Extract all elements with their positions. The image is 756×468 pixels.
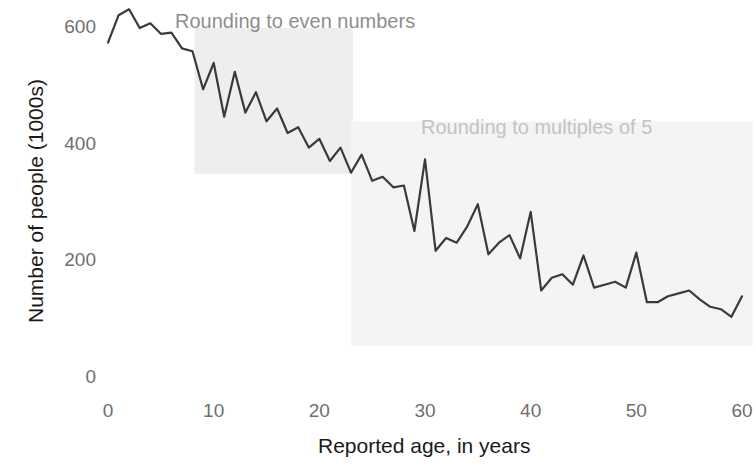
- y-tick-label-0: 0: [36, 366, 96, 388]
- x-axis-label: Reported age, in years: [318, 434, 530, 458]
- y-tick-label-200: 200: [36, 249, 96, 271]
- x-tick-label-50: 50: [606, 400, 666, 422]
- x-tick-label-30: 30: [395, 400, 455, 422]
- annotation-band-0: [195, 28, 354, 174]
- x-tick-label-10: 10: [184, 400, 244, 422]
- annotation-bands: [195, 28, 753, 346]
- y-tick-label-400: 400: [36, 133, 96, 155]
- y-axis-label: Number of people (1000s): [24, 11, 48, 391]
- x-tick-label-60: 60: [712, 400, 756, 422]
- x-tick-label-20: 20: [289, 400, 349, 422]
- annotation-rounding-multiples-of-5: Rounding to multiples of 5: [421, 116, 652, 139]
- line-chart-plot: [0, 0, 756, 468]
- annotation-band-1: [351, 121, 753, 346]
- x-tick-label-0: 0: [78, 400, 138, 422]
- chart-figure: Rounding to even numbers Rounding to mul…: [0, 0, 756, 468]
- x-tick-label-40: 40: [501, 400, 561, 422]
- annotation-rounding-even: Rounding to even numbers: [175, 10, 415, 33]
- y-tick-label-600: 600: [36, 16, 96, 38]
